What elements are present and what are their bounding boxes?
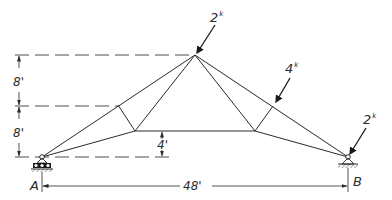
support-b-pin	[338, 155, 358, 168]
bottom-chord-left	[42, 131, 135, 157]
rise-dimension: 4'	[157, 132, 168, 156]
span-dimension-label: 48'	[183, 179, 202, 193]
web-left-diagonal	[135, 55, 195, 131]
lower-height-dimension: 8'	[13, 126, 24, 140]
web-right-vertical	[255, 106, 273, 131]
truss-diagram: 2k 4k 2k 8' 8' 4' 48' A B	[0, 0, 392, 200]
span-dimension: 48'	[42, 168, 348, 193]
support-a-roller	[31, 155, 53, 172]
panel-load-arrow-icon	[276, 78, 290, 102]
upper-height-dimension: 8'	[13, 75, 24, 89]
apex-load-label: 2k	[210, 10, 224, 25]
node-b-label: B	[353, 174, 362, 189]
loads: 2k 4k 2k	[197, 10, 377, 154]
apex-load-arrow-icon	[197, 25, 215, 53]
support-b-load-arrow-icon	[350, 128, 366, 154]
support-b-load-label: 2k	[363, 112, 377, 127]
bottom-chord-right	[255, 131, 348, 157]
web-left-vertical	[118, 105, 135, 131]
top-chord-right	[195, 55, 348, 157]
bottom-chord-rise-dimension: 4'	[157, 138, 168, 152]
web-right-diagonal	[195, 55, 255, 131]
node-a-label: A	[29, 178, 39, 193]
panel-load-label: 4k	[285, 61, 299, 76]
